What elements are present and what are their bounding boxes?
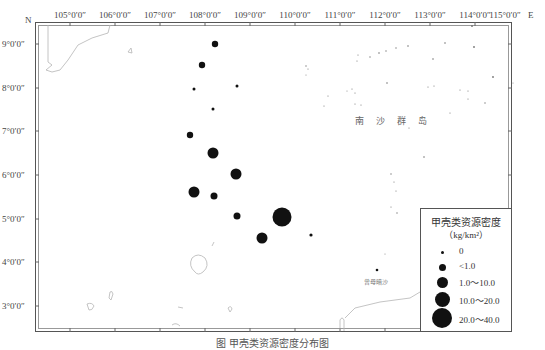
nansha-islands-label: 南沙群岛 — [355, 114, 439, 127]
station-dot — [231, 169, 242, 180]
legend-item: 10.0～20.0 — [421, 291, 511, 311]
station-dot — [376, 269, 379, 272]
legend-dot-icon — [439, 264, 446, 271]
station-dot — [273, 208, 292, 227]
station-dot — [257, 233, 268, 244]
station-dot — [309, 233, 312, 236]
figure-caption: 图 甲壳类资源密度分布图 — [0, 335, 545, 350]
legend-dot-icon — [435, 292, 450, 307]
legend-item: 20.0～40.0 — [421, 310, 511, 330]
legend-label: <1.0 — [459, 261, 475, 271]
legend-dot-icon — [441, 251, 444, 254]
station-dot — [212, 41, 218, 47]
legend-label: 20.0～40.0 — [459, 313, 500, 326]
legend-unit: （kg/km²） — [421, 228, 511, 241]
legend-dot-icon — [432, 308, 452, 328]
legend-label: 1.0～10.0 — [459, 276, 495, 289]
station-dot — [208, 148, 219, 159]
station-dot — [212, 108, 215, 111]
legend: 甲壳类资源密度 （kg/km²） 0 <1.0 1.0～10.0 10.0～20… — [420, 208, 512, 332]
legend-title: 甲壳类资源密度 — [421, 214, 511, 229]
station-dot — [193, 88, 196, 91]
station-dot — [236, 85, 239, 88]
zengmu-ansha-label: 曾母暗沙 — [364, 277, 388, 286]
station-dot — [187, 132, 193, 138]
legend-dot-icon — [437, 277, 448, 288]
sample-stations — [187, 41, 379, 272]
station-dot — [211, 193, 218, 200]
station-dot — [199, 62, 205, 68]
legend-label: 0 — [459, 246, 464, 256]
station-dot — [234, 213, 241, 220]
station-dot — [189, 187, 200, 198]
legend-label: 10.0～20.0 — [459, 294, 500, 307]
